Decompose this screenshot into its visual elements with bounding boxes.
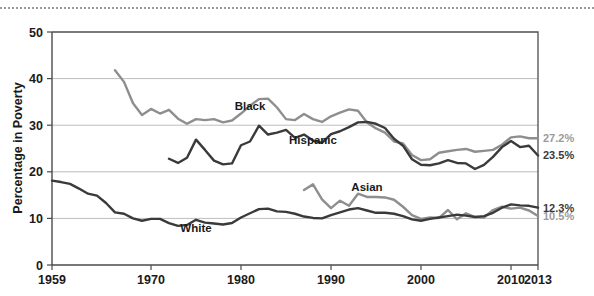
x-tick-label: 1990: [317, 273, 345, 287]
series-label-white: White: [180, 222, 211, 234]
chart-canvas: 01020304050 1959197019801990200020102013…: [0, 0, 594, 296]
y-tick-label: 10: [29, 212, 43, 226]
x-tick-label: 1980: [227, 273, 255, 287]
end-label-black: 27.2%: [543, 132, 574, 144]
end-label-hispanic: 23.5%: [543, 149, 574, 161]
series-line-asian: [304, 184, 538, 219]
y-tick-label: 40: [29, 72, 43, 86]
x-tick-label: 1959: [38, 273, 66, 287]
x-tick-label: 2010: [497, 273, 525, 287]
series-line-white: [52, 181, 538, 226]
end-label-asian: 10.5%: [543, 210, 574, 222]
y-tick-label: 20: [29, 165, 43, 179]
series-label-black: Black: [235, 100, 266, 112]
series-label-asian: Asian: [351, 181, 382, 193]
x-tick-label: 2000: [407, 273, 435, 287]
x-tick-label: 1970: [137, 273, 165, 287]
x-tick-label: 2013: [524, 273, 552, 287]
top-divider-rule: [0, 7, 594, 9]
poverty-rate-line-chart: 01020304050 1959197019801990200020102013…: [0, 0, 594, 296]
y-axis-ticks: 01020304050: [29, 26, 52, 273]
y-tick-label: 0: [36, 259, 43, 273]
gridlines-group: [52, 32, 538, 218]
y-tick-label: 50: [29, 26, 43, 40]
y-tick-label: 30: [29, 119, 43, 133]
series-line-hispanic: [169, 122, 538, 169]
x-axis-ticks: 1959197019801990200020102013: [38, 265, 552, 287]
series-lines-group: [52, 70, 538, 226]
y-axis-title: Percentage in Poverty: [11, 82, 25, 213]
series-line-black: [115, 70, 538, 160]
series-label-hispanic: Hispanic: [289, 134, 338, 146]
end-value-labels: 27.2%23.5%12.3%10.5%: [543, 132, 574, 222]
